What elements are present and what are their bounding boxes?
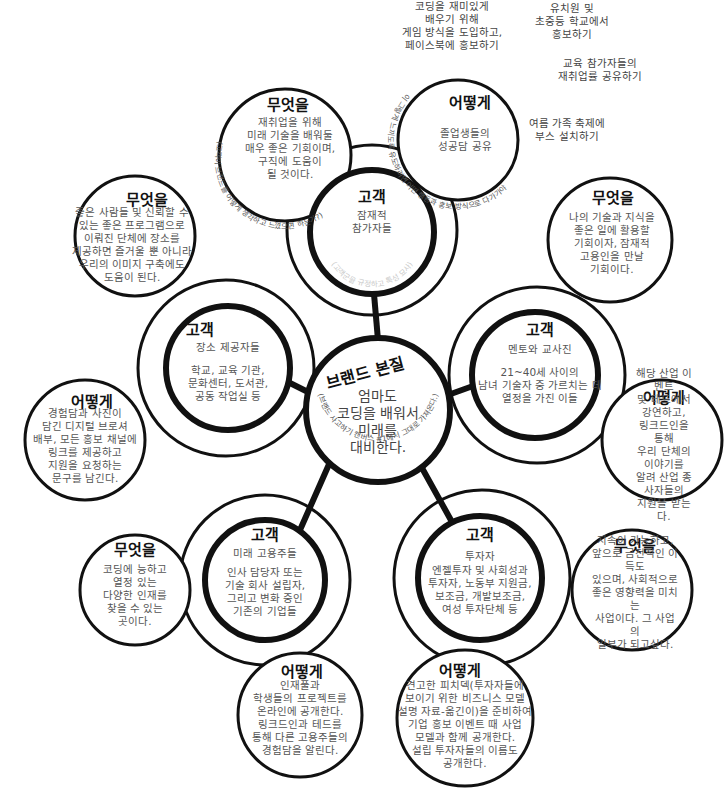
how-text-bottom-right: 견고한 피치덱(투자자들에 보이기 위한 비즈니스 모델 설명 자료-옮긴이)을… [398, 679, 533, 770]
what-text-right: 나의 기술과 지식을 좋은 일에 활용할 기회이자, 잠재적 고용인을 만날 기… [569, 211, 656, 276]
customer-heading-bottom-left: 고객 [251, 523, 279, 544]
customer-heading-bottom-right: 고객 [466, 523, 494, 544]
what-heading-bottom-left: 무엇을 [114, 538, 156, 559]
customer-heading-left: 고객 [186, 318, 214, 339]
how-heading-bottom-right: 어떻게 [439, 659, 481, 680]
how-text-bottom-left: 인재풀과 학생들의 프로젝트를 온라인에 공개한다. 링크드인과 테드를 통해 … [252, 679, 349, 757]
customer-name-bottom-left: 미래 고용주들 [233, 547, 296, 560]
customer-heading-right: 고객 [526, 318, 554, 339]
how-heading-top: 어떻게 [449, 91, 491, 112]
customer-name-right: 멘토와 교사진 [508, 343, 571, 356]
customer-detail-bottom-left: 인사 담당자 또는 기술 회사 설립자, 그리고 변화 중인 기존의 기업들 [225, 566, 305, 618]
customer-text-top: 잠재적 참가자들 [352, 209, 392, 235]
what-text-bottom-right: 지속이 가능하고, 앞으로 금전적인 이득도 있으며, 사회적으로 좋은 영향력… [591, 534, 680, 651]
core-statement: 엄마도 코딩을 배워서 미래를 대비한다. [337, 388, 419, 456]
how-text-top: 졸업생들의 성공담 공유 [438, 127, 491, 153]
floating-note-schools: 유치원 및 초중등 학교에서 홍보하기 [535, 2, 608, 41]
floating-note-festival: 여름 가족 축제에 부스 설치하기 [529, 117, 606, 143]
what-text-bottom-left: 코딩에 능하고 열정 있는 다양한 인재를 찾을 수 있는 곳이다. [103, 563, 166, 628]
customer-heading-top: 고객 [358, 185, 386, 206]
how-heading-bottom-left: 어떻게 [281, 660, 323, 681]
customer-name-left: 장소 제공자들 [196, 341, 259, 354]
customer-detail-right: 21~40세 사이의 남녀 기술자 중 가르치는 데 열정을 가진 이들 [478, 366, 601, 405]
spoke-top [374, 294, 378, 340]
spoke-bottom-right [422, 468, 452, 522]
floating-note-reemployment: 교육 참가자들의 재취업률 공유하기 [558, 57, 641, 83]
what-text-left: 좋은 사람들 및 신뢰할 수 있는 좋은 프로그램으로 이뤄진 단체에 장소를 … [72, 206, 192, 284]
what-text-top: 재취업을 위해 미래 기술을 배워둘 매우 좋은 기회이며, 구직에 도움이 될… [245, 116, 335, 181]
customer-name-bottom-right: 투자자 [465, 550, 495, 563]
how-text-right: 해당 산업 이벤트 및 테드에서 강연하고, 링크드인을 통해 우리 단체의 이… [634, 367, 694, 523]
floating-note-game: 코딩을 재미있게 배우기 위해 게임 방식을 도입하고, 페이스북에 홍보하기 [402, 0, 502, 52]
how-text-left: 경험담과 사진이 담긴 디지털 브로셔 배부, 모든 홍보 채널에 링크를 제공… [33, 407, 136, 485]
customer-detail-bottom-right: 엔젤투자 및 사회성과 투자자, 노동부 지원금, 보조금, 개발보조금, 여성… [428, 564, 531, 616]
what-heading-right: 무엇을 [592, 186, 634, 207]
what-heading-top: 무엇을 [267, 93, 309, 114]
customer-detail-left: 학교, 교육 기관, 문화센터, 도서관, 공동 작업실 등 [188, 364, 268, 403]
